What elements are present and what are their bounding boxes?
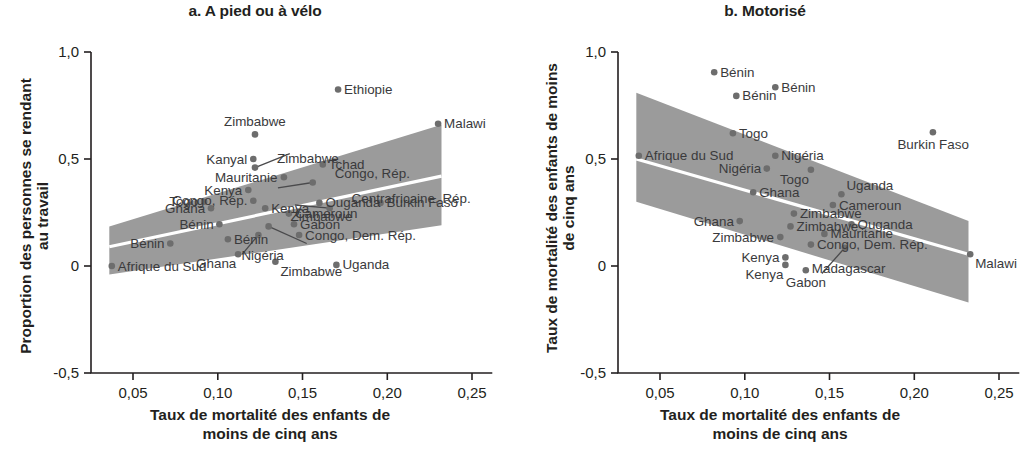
x-tick-label: 0,05 xyxy=(103,384,163,401)
data-point xyxy=(730,130,737,137)
data-point xyxy=(167,240,174,247)
y-tick-label: 0,5 xyxy=(560,150,606,167)
data-point-label: Burkin Faso xyxy=(897,138,968,151)
data-point-label: Congo, Rép. xyxy=(172,194,247,207)
data-point xyxy=(803,267,810,274)
data-point xyxy=(782,254,789,261)
data-point-label: Zimbabwe xyxy=(224,115,286,128)
x-tick-label: 0,25 xyxy=(969,384,1020,401)
data-point-label: Kanyal xyxy=(206,153,247,166)
panel-b-svg xyxy=(510,0,1020,400)
x-tick-label: 0,15 xyxy=(273,384,333,401)
data-point-label: Burkin Faso xyxy=(387,196,458,209)
panel-a-x-axis-label-line2: moins de cinq ans xyxy=(40,424,500,443)
data-point-label: Congo, Dem. Rép. xyxy=(817,238,928,251)
data-point xyxy=(296,232,303,239)
y-tick-label: 0,5 xyxy=(33,150,79,167)
panel-a-plot-area: 1,00,50-0,50,050,100,150,200,25Afrique d… xyxy=(0,0,510,466)
data-point-label: Kenya xyxy=(741,251,779,264)
data-point-label: Madagascar xyxy=(812,262,886,275)
data-point xyxy=(967,251,974,258)
data-point-label: Ghana xyxy=(759,186,799,199)
data-point xyxy=(250,197,257,204)
data-point-label: Bénin xyxy=(742,89,776,102)
data-point-label: Zimbabwe xyxy=(280,265,342,278)
data-point-label: Congo, Dem. Rép. xyxy=(305,229,416,242)
data-point-label: Bénin xyxy=(720,66,754,79)
data-point xyxy=(733,93,740,100)
y-tick-label: 0 xyxy=(33,257,79,274)
panel-b-x-axis-label-line2: moins de cinq ans xyxy=(550,424,1010,443)
data-point xyxy=(250,156,257,163)
panel-b-x-axis-label-line1: Taux de mortalité des enfants de xyxy=(550,405,1010,424)
data-point xyxy=(435,120,442,127)
y-tick-label: -0,5 xyxy=(33,364,79,381)
data-point-label: Bénin xyxy=(179,218,213,231)
data-point-label: Mauritanie xyxy=(215,171,278,184)
data-point-label: Kenya xyxy=(745,268,783,281)
data-point-label: Afrique du Sud xyxy=(118,260,207,273)
data-point xyxy=(711,69,718,76)
data-point xyxy=(772,153,779,160)
panel-b-x-axis-label: Taux de mortalité des enfants de moins d… xyxy=(550,405,1010,444)
data-point xyxy=(808,241,815,248)
panel-a-x-axis-label: Taux de mortalité des enfants de moins d… xyxy=(40,405,500,444)
data-point-label: Nigéria xyxy=(781,149,823,162)
data-point xyxy=(309,179,316,186)
data-point-label: Zimbabwe xyxy=(712,231,774,244)
data-point-label: Malawi xyxy=(975,257,1017,270)
data-point xyxy=(225,236,232,243)
x-tick-label: 0,05 xyxy=(630,384,690,401)
data-point xyxy=(838,191,845,198)
data-point xyxy=(777,234,784,241)
data-point xyxy=(750,189,757,196)
x-tick-label: 0,25 xyxy=(442,384,502,401)
data-point xyxy=(216,221,223,228)
data-point xyxy=(787,223,794,230)
x-tick-label: 0,20 xyxy=(884,384,944,401)
data-point-label: Bénin xyxy=(234,233,268,246)
data-point xyxy=(262,205,269,212)
data-point xyxy=(252,131,259,138)
data-point-label: Bénin xyxy=(130,237,164,250)
y-tick-label: 1,0 xyxy=(33,43,79,60)
data-point-label: Tchad xyxy=(329,158,365,171)
panel-b-plot-area: 1,00,50-0,50,050,100,150,200,25Afrique d… xyxy=(510,0,1020,466)
data-point-label: Uganda xyxy=(846,179,893,192)
data-point-label: Gabon xyxy=(786,276,826,289)
data-point-label: Togo xyxy=(780,173,809,186)
data-point-label: Malawi xyxy=(444,117,486,130)
x-tick-label: 0,15 xyxy=(800,384,860,401)
x-tick-label: 0,20 xyxy=(357,384,417,401)
figure-root: a. A pied ou à vélo Proportion des perso… xyxy=(0,0,1020,466)
chart-panel-b: b. Motorisé Taux de mortalité des enfant… xyxy=(510,0,1020,466)
data-point xyxy=(736,218,743,225)
data-point xyxy=(930,129,937,136)
data-point xyxy=(764,165,771,172)
data-point xyxy=(109,263,116,270)
y-tick-label: 1,0 xyxy=(560,43,606,60)
data-point-label: Ghana xyxy=(694,215,734,228)
data-point xyxy=(281,174,288,181)
data-point xyxy=(791,210,798,217)
y-tick-label: -0,5 xyxy=(560,364,606,381)
data-point-label: Ghana xyxy=(196,257,236,270)
confidence-band xyxy=(636,93,968,303)
data-point xyxy=(636,153,643,160)
data-point xyxy=(265,223,272,230)
data-point-label: Nigéria xyxy=(241,249,283,262)
chart-panel-a: a. A pied ou à vélo Proportion des perso… xyxy=(0,0,510,466)
data-point-label: Togo xyxy=(739,127,768,140)
data-point-label: Bénin xyxy=(781,81,815,94)
panel-a-x-axis-label-line1: Taux de mortalité des enfants de xyxy=(40,405,500,424)
x-tick-label: 0,10 xyxy=(715,384,775,401)
data-point-label: Ethiopie xyxy=(344,83,392,96)
y-tick-label: 0 xyxy=(560,257,606,274)
x-tick-label: 0,10 xyxy=(188,384,248,401)
data-point-label: Nigéria xyxy=(719,162,761,175)
data-point-label: Uganda xyxy=(342,258,389,271)
data-point xyxy=(335,86,342,93)
